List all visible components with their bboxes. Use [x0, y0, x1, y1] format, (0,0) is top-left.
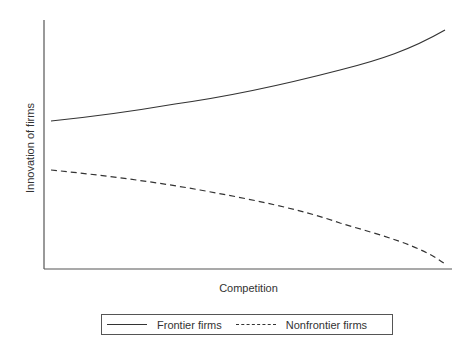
dashed-line-swatch-icon [236, 324, 276, 325]
x-axis-label: Competition [0, 282, 469, 294]
legend: Frontier firms Nonfrontier firms [101, 314, 393, 335]
y-axis-label: Innovation of firms [24, 78, 36, 218]
legend-item-frontier: Frontier firms [157, 319, 222, 331]
legend-item-nonfrontier: Nonfrontier firms [286, 319, 367, 331]
solid-line-swatch-icon [107, 324, 147, 325]
chart-plot [0, 0, 469, 357]
frontier-firms-line [51, 30, 445, 121]
nonfrontier-firms-line [51, 170, 445, 264]
